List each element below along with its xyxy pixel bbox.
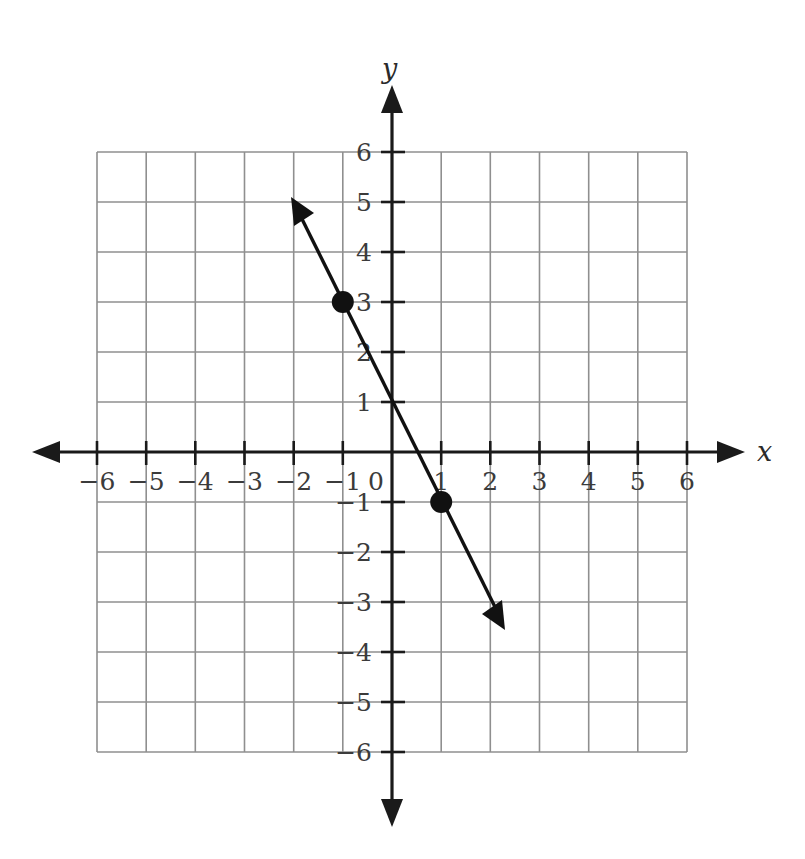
x-axis-arrow-left xyxy=(32,441,60,463)
data-point xyxy=(430,491,452,513)
y-axis xyxy=(381,85,405,827)
x-tick-label: −5 xyxy=(128,467,165,496)
x-tick-label: −6 xyxy=(79,467,116,496)
y-tick-label: 3 xyxy=(356,288,372,317)
x-axis-label: x xyxy=(757,436,772,467)
x-tick-label: −2 xyxy=(275,467,312,496)
x-axis-arrow-right xyxy=(717,441,745,463)
y-tick-label: −1 xyxy=(335,488,372,517)
y-tick-label: −5 xyxy=(335,688,372,717)
y-axis-label: y xyxy=(381,53,398,84)
plotted-line xyxy=(291,197,505,630)
y-axis-arrow-up xyxy=(381,85,403,113)
x-tick-label: 4 xyxy=(581,467,597,496)
y-tick-label: −4 xyxy=(335,638,372,667)
data-point xyxy=(332,291,354,313)
y-tick-label: 4 xyxy=(356,238,372,267)
x-tick-label: 3 xyxy=(532,467,548,496)
line-segment xyxy=(296,207,500,617)
y-axis-arrow-down xyxy=(381,799,403,827)
coordinate-plane-figure: −6 −5 −4 −3 −2 −1 0 1 2 3 4 5 6 6 5 4 3 … xyxy=(0,0,805,859)
x-tick-label: −3 xyxy=(226,467,263,496)
x-tick-label: 6 xyxy=(679,467,695,496)
graph-canvas: −6 −5 −4 −3 −2 −1 0 1 2 3 4 5 6 6 5 4 3 … xyxy=(0,0,805,859)
y-tick-label: 6 xyxy=(356,138,372,167)
y-tick-label: −6 xyxy=(335,738,372,767)
x-tick-label: −4 xyxy=(177,467,214,496)
x-axis-tick-labels: −6 −5 −4 −3 −2 −1 0 1 2 3 4 5 6 xyxy=(79,467,695,496)
x-tick-label: 5 xyxy=(630,467,646,496)
y-tick-label: 1 xyxy=(356,388,372,417)
y-tick-label: −3 xyxy=(335,588,372,617)
y-tick-label: 5 xyxy=(356,188,372,217)
x-axis xyxy=(32,441,745,465)
y-tick-label: −2 xyxy=(335,538,372,567)
x-tick-label: 2 xyxy=(482,467,498,496)
